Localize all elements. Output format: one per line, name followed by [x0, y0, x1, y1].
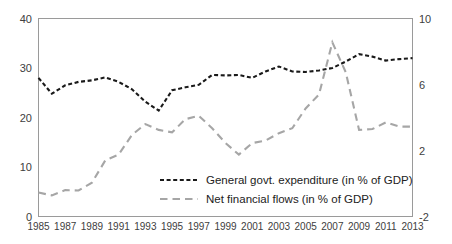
x-axis-tick-2007: 2007: [321, 221, 344, 232]
x-axis-tick-2001: 2001: [241, 221, 264, 232]
legend-label-net-financial-flows: Net financial flows (in % of GDP): [206, 193, 373, 205]
x-axis-tick-2005: 2005: [295, 221, 318, 232]
left-axis-tick-10: 10: [20, 161, 32, 173]
x-axis-tick-1995: 1995: [161, 221, 184, 232]
left-axis-tick-40: 40: [20, 13, 32, 25]
x-axis-tick-1989: 1989: [81, 221, 104, 232]
right-axis-tick-2: 2: [419, 145, 425, 157]
line-chart: 010203040 -22610 19851987198919911993199…: [0, 0, 452, 244]
x-axis-tick-labels: 1985198719891991199319951997199920012003…: [27, 221, 424, 232]
x-axis-tick-1987: 1987: [54, 221, 77, 232]
x-axis-tick-1985: 1985: [27, 221, 50, 232]
legend-label-govt-expenditure: General govt. expenditure (in % of GDP): [206, 174, 413, 186]
left-axis-tick-20: 20: [20, 112, 32, 124]
x-axis-tick-1997: 1997: [188, 221, 211, 232]
x-axis-tick-2011: 2011: [375, 221, 397, 232]
left-axis-tick-30: 30: [20, 62, 32, 74]
right-axis-tick-6: 6: [419, 79, 425, 91]
x-axis-tick-2013: 2013: [401, 221, 424, 232]
chart-background: [0, 0, 452, 244]
x-axis-tick-2009: 2009: [348, 221, 371, 232]
x-axis-tick-2003: 2003: [268, 221, 291, 232]
x-axis-tick-1999: 1999: [214, 221, 237, 232]
right-axis-tick-10: 10: [419, 13, 431, 25]
chart-container: 010203040 -22610 19851987198919911993199…: [0, 0, 452, 244]
x-axis-tick-1993: 1993: [134, 221, 157, 232]
x-axis-tick-1991: 1991: [108, 221, 131, 232]
